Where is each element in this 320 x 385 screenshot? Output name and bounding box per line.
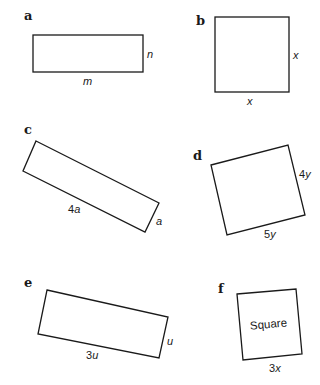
panel-letter-f: f [218, 281, 225, 296]
side-label-4a: 4a [68, 203, 80, 215]
rectangle-e [38, 290, 168, 358]
panel-letter-a: a [24, 8, 33, 23]
rectangles-diagram: a n m b x x c 4a a d 4y 5y e 3u u f Squa… [0, 0, 320, 385]
panel-letter-e: e [24, 275, 32, 290]
side-label-4y: 4y [299, 168, 312, 180]
side-label-x-right: x [292, 49, 299, 61]
rectangle-c [23, 141, 159, 232]
side-label-3x: 3x [269, 362, 281, 374]
panel-b: b x x [196, 13, 299, 107]
side-label-n: n [147, 48, 153, 60]
panel-letter-c: c [24, 122, 32, 137]
panel-a: a n m [24, 8, 153, 87]
rectangle-d [211, 145, 305, 235]
square-b [215, 17, 289, 92]
side-label-3u: 3u [86, 349, 98, 361]
side-label-a: a [156, 215, 162, 227]
panel-e: e 3u u [24, 275, 173, 361]
side-label-x-bottom: x [246, 95, 253, 107]
side-label-u: u [167, 335, 173, 347]
side-label-m: m [83, 75, 92, 87]
side-label-5y: 5y [264, 228, 277, 240]
panel-letter-b: b [196, 13, 205, 28]
panel-f: f Square 3x [218, 281, 302, 374]
panel-c: c 4a a [23, 122, 162, 232]
rectangle-a [33, 35, 143, 72]
panel-letter-d: d [193, 148, 202, 163]
panel-d: d 4y 5y [193, 145, 312, 240]
